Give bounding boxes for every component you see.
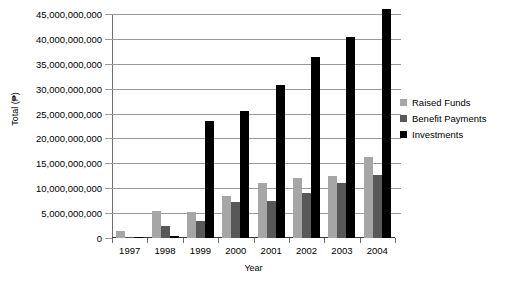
legend-swatch-icon: [400, 99, 407, 106]
bar-investments-2004: [382, 9, 391, 238]
x-axis-tick: [324, 238, 325, 243]
legend-label: Raised Funds: [412, 98, 471, 108]
bar-group-1999: [187, 14, 214, 238]
y-axis-tick-label: 35,000,000,000: [36, 58, 102, 69]
y-axis-tick: [105, 14, 112, 15]
y-axis-line: [112, 14, 113, 238]
bar-benefit-payments-2003: [337, 183, 346, 238]
bar-investments-2002: [311, 57, 320, 238]
x-axis-tick-label: 2000: [225, 245, 246, 256]
bar-investments-2003: [346, 37, 355, 238]
plot-area: [112, 14, 395, 238]
bar-benefit-payments-1997: [125, 237, 134, 238]
y-axis-tick-label: 30,000,000,000: [36, 83, 102, 94]
bar-group-1997: [116, 14, 143, 238]
y-axis-tick-label: 5,000,000,000: [41, 208, 102, 219]
bar-benefit-payments-2004: [373, 175, 382, 238]
bar-raised-funds-2002: [293, 178, 302, 238]
legend-item-benefit-payments[interactable]: Benefit Payments: [400, 112, 505, 125]
bar-benefit-payments-1999: [196, 221, 205, 238]
x-axis-tick: [289, 238, 290, 243]
x-axis-tick: [360, 238, 361, 243]
x-axis-tick-label: 2003: [331, 245, 352, 256]
x-axis-tick: [147, 238, 148, 243]
x-axis-tick-label: 1999: [190, 245, 211, 256]
x-axis-tick-label: 2004: [367, 245, 388, 256]
y-axis-tick-label: 10,000,000,000: [36, 183, 102, 194]
y-axis-tick-right: [395, 163, 401, 164]
legend-label: Investments: [412, 130, 463, 140]
bar-raised-funds-1998: [152, 211, 161, 238]
legend-label: Benefit Payments: [412, 114, 486, 124]
y-axis-tick-label: 0: [97, 233, 102, 244]
y-axis-tick-right: [395, 213, 401, 214]
y-axis-tick-label: 45,000,000,000: [36, 9, 102, 20]
y-axis-tick: [105, 89, 112, 90]
x-axis-tick: [395, 238, 396, 243]
x-axis-tick-labels: 19971998199920002001200220032004: [112, 245, 395, 261]
x-axis-tick-label: 2002: [296, 245, 317, 256]
bar-raised-funds-2001: [258, 183, 267, 238]
y-axis-tick-label: 40,000,000,000: [36, 33, 102, 44]
bar-benefit-payments-2001: [267, 201, 276, 238]
bar-investments-1998: [170, 236, 179, 238]
bar-group-2003: [328, 14, 355, 238]
y-axis-tick: [105, 213, 112, 214]
x-axis-tick-label: 1998: [154, 245, 175, 256]
bar-group-2001: [258, 14, 285, 238]
bar-investments-1997: [134, 237, 143, 238]
y-axis-tick-right: [395, 89, 401, 90]
bar-benefit-payments-2002: [302, 193, 311, 238]
bar-raised-funds-1997: [116, 231, 125, 238]
y-axis-tick: [105, 138, 112, 139]
y-axis-tick: [105, 163, 112, 164]
legend-swatch-icon: [400, 115, 407, 122]
y-axis-tick-right: [395, 188, 401, 189]
bar-group-2004: [364, 14, 391, 238]
y-axis-tick-label: 20,000,000,000: [36, 133, 102, 144]
y-axis-tick: [105, 114, 112, 115]
bar-group-2000: [222, 14, 249, 238]
y-axis-tick-label: 15,000,000,000: [36, 158, 102, 169]
y-axis-tick: [105, 64, 112, 65]
y-axis-tick-right: [395, 64, 401, 65]
legend-item-investments[interactable]: Investments: [400, 128, 505, 141]
bar-raised-funds-2004: [364, 157, 373, 238]
bar-benefit-payments-1998: [161, 226, 170, 238]
bar-raised-funds-2003: [328, 176, 337, 238]
y-axis-tick-label: 25,000,000,000: [36, 108, 102, 119]
y-axis-tick-labels: 05,000,000,00010,000,000,00015,000,000,0…: [0, 0, 112, 281]
x-axis-tick: [183, 238, 184, 243]
x-axis-tick: [112, 238, 113, 243]
bar-raised-funds-1999: [187, 212, 196, 238]
x-axis-title: Year: [112, 263, 395, 273]
bar-group-1998: [152, 14, 179, 238]
bar-investments-2001: [276, 85, 285, 238]
bar-investments-1999: [205, 121, 214, 238]
bar-group-2002: [293, 14, 320, 238]
bar-chart: Total (₱) 05,000,000,00010,000,000,00015…: [0, 0, 505, 281]
chart-legend: Raised FundsBenefit PaymentsInvestments: [400, 96, 505, 144]
legend-swatch-icon: [400, 131, 407, 138]
y-axis-tick: [105, 39, 112, 40]
y-axis-tick: [105, 188, 112, 189]
bar-investments-2000: [240, 111, 249, 238]
y-axis-tick-right: [395, 14, 401, 15]
bar-benefit-payments-2000: [231, 202, 240, 238]
legend-item-raised-funds[interactable]: Raised Funds: [400, 96, 505, 109]
x-axis-tick: [218, 238, 219, 243]
bar-raised-funds-2000: [222, 196, 231, 238]
x-axis-tick: [254, 238, 255, 243]
x-axis-tick-label: 2001: [261, 245, 282, 256]
y-axis-tick: [105, 238, 112, 239]
x-axis-tick-label: 1997: [119, 245, 140, 256]
y-axis-tick-right: [395, 39, 401, 40]
